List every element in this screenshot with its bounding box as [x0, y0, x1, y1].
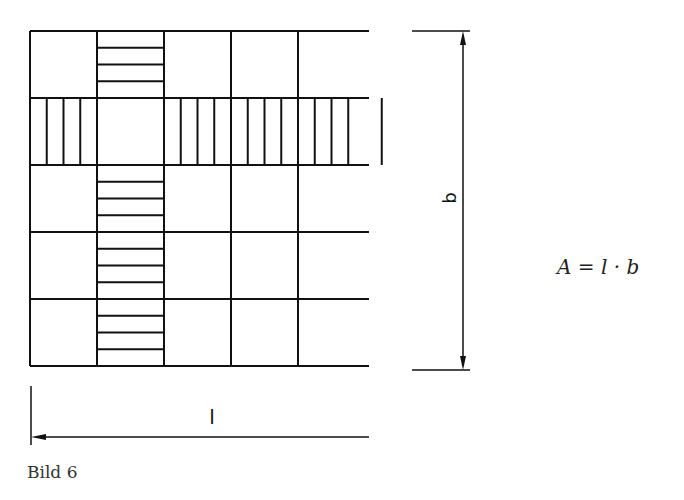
arrow-down-icon	[460, 356, 466, 370]
arrow-up-icon	[460, 31, 466, 45]
tile-grid-drawing	[0, 0, 684, 500]
area-diagram: b l A = l · b Bild 6	[0, 0, 684, 500]
width-label: l	[204, 405, 220, 429]
tile-grid	[30, 31, 382, 366]
figure-caption: Bild 6	[27, 462, 77, 482]
height-label: b	[440, 188, 460, 208]
arrow-left-icon	[31, 434, 46, 440]
area-formula: A = l · b	[557, 255, 639, 279]
